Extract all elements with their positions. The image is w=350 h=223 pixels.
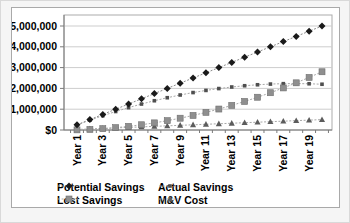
x-tick-label: Year 19 [303,135,315,172]
square-marker [280,85,286,91]
legend-marker-triangle-icon [158,194,182,204]
small-square-marker [168,184,172,188]
small-square-marker [230,85,234,89]
square-marker [113,125,119,131]
x-tick-label: Year 17 [277,135,289,172]
small-square-marker [269,82,273,86]
x-tick-label: Year 1 [71,135,83,166]
legend-marker-small-square-icon [158,181,182,191]
x-tick-label: Year 11 [199,135,211,171]
square-marker [151,120,157,126]
square-marker [87,126,93,132]
legend-item-actual-savings: Actual Savings [158,181,233,193]
legend-item-m-v-cost: M&V Cost [158,194,208,206]
y-axis-labels: $0$1,000,000$2,000,000$3,000,000$4,000,0… [12,20,64,136]
square-marker [216,106,222,112]
y-tick-label: $5,000,000 [12,20,57,32]
square-marker [229,102,235,108]
y-tick-label: $4,000,000 [12,40,57,52]
square-marker [255,94,261,100]
small-square-marker [320,82,324,86]
chart-frame: $0$1,000,000$2,000,000$3,000,000$4,000,0… [11,7,340,208]
x-tick-label: Year 5 [122,135,134,166]
square-marker [267,90,273,96]
y-tick-label: $3,000,000 [12,61,57,73]
small-square-marker [165,96,169,100]
y-tick-label: $2,000,000 [12,82,57,94]
square-marker [66,196,72,202]
x-tick-label: Year 13 [225,135,237,172]
legend-item-potential-savings: Potential Savings [57,181,145,193]
square-marker [190,112,196,118]
square-marker [203,109,209,115]
small-square-marker [307,82,311,86]
square-marker [126,123,132,129]
x-tick-label: Year 9 [174,135,186,166]
chart-screenshot: $0$1,000,000$2,000,000$3,000,000$4,000,0… [0,0,350,223]
small-square-marker [217,87,221,91]
x-tick-label: Year 7 [148,135,160,166]
x-tick-label: Year 3 [96,135,108,166]
square-marker [242,98,248,104]
small-square-marker [153,99,157,103]
x-axis-labels: Year 1Year 3Year 5Year 7Year 9Year 11Yea… [71,130,329,172]
square-marker [319,69,325,75]
small-square-marker [178,93,182,97]
small-square-marker [243,84,247,88]
chart-plot-area: $0$1,000,000$2,000,000$3,000,000$4,000,0… [12,8,339,207]
square-marker [138,122,144,128]
y-tick-label: $1,000,000 [12,103,57,115]
square-marker [100,126,106,132]
square-marker [293,80,299,86]
small-square-marker [140,102,144,106]
square-marker [164,118,170,124]
square-marker [177,115,183,121]
square-marker [306,74,312,80]
small-square-marker [204,89,208,93]
x-tick-label: Year 15 [251,135,263,172]
legend-marker-square-icon [57,194,81,204]
legend-marker-diamond-icon [57,181,81,191]
legend-item-lost-savings: Lost Savings [57,194,122,206]
small-square-marker [191,91,195,95]
y-tick-label: $0 [45,124,57,136]
small-square-marker [256,83,260,87]
diamond-marker [66,183,73,190]
